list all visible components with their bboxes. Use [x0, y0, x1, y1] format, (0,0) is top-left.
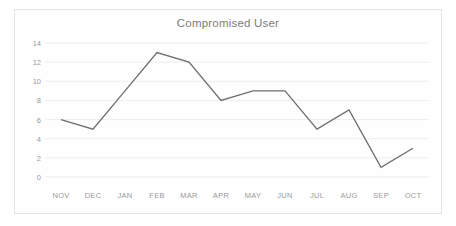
plot-area: 14121086420 NOVDECJANFEBMARAPRMAYJUNJULA…	[15, 10, 443, 215]
x-axis-tick-label: SEP	[373, 191, 389, 200]
x-axis-tick-label: JUL	[310, 191, 324, 200]
x-axis-tick-label: AUG	[340, 191, 357, 200]
x-axis-tick-label: DEC	[85, 191, 102, 200]
x-axis-tick-label: MAR	[180, 191, 198, 200]
x-axis-tick-label: JUN	[277, 191, 292, 200]
chart-frame: Compromised User 14121086420 NOVDECJANFE…	[14, 9, 442, 214]
x-axis-tick-label: FEB	[149, 191, 165, 200]
x-axis: NOVDECJANFEBMARAPRMAYJUNJULAUGSEPOCT	[15, 10, 443, 215]
x-axis-tick-label: JAN	[117, 191, 132, 200]
x-axis-tick-label: OCT	[405, 191, 422, 200]
x-axis-tick-label: APR	[213, 191, 229, 200]
x-axis-tick-label: NOV	[52, 191, 69, 200]
x-axis-tick-label: MAY	[245, 191, 262, 200]
